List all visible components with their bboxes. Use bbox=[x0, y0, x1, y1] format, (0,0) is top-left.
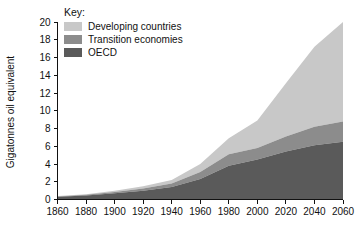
x-tick-label: 1880 bbox=[75, 206, 98, 217]
y-tick-label: 2 bbox=[45, 176, 51, 187]
x-tick-label: 2060 bbox=[332, 206, 355, 217]
legend-swatch-oecd bbox=[64, 48, 82, 57]
x-tick-label: 2000 bbox=[246, 206, 269, 217]
chart-container: 02468101214161820 1860188019001920194019… bbox=[0, 0, 360, 234]
y-axis-title: Gigatonnes oil equivalent bbox=[5, 56, 16, 169]
x-tick-label: 1980 bbox=[218, 206, 241, 217]
y-tick-label: 10 bbox=[39, 105, 51, 116]
x-tick-label: 2020 bbox=[275, 206, 298, 217]
legend-label-transition-economies: Transition economies bbox=[88, 34, 183, 45]
stacked-area-chart: 02468101214161820 1860188019001920194019… bbox=[0, 0, 360, 234]
x-tick-label: 1920 bbox=[132, 206, 155, 217]
x-tick-label: 2040 bbox=[303, 206, 326, 217]
y-tick-label: 0 bbox=[45, 194, 51, 205]
legend-label-oecd: OECD bbox=[88, 47, 117, 58]
y-tick-label: 12 bbox=[39, 88, 51, 99]
legend-label-developing-countries: Developing countries bbox=[88, 21, 181, 32]
y-tick-label: 4 bbox=[45, 159, 51, 170]
y-tick-label: 18 bbox=[39, 34, 51, 45]
x-tick-label: 1960 bbox=[189, 206, 212, 217]
x-tick-label: 1940 bbox=[161, 206, 184, 217]
x-tick-label: 1860 bbox=[46, 206, 69, 217]
legend-swatch-developing-countries bbox=[64, 22, 82, 31]
y-tick-label: 16 bbox=[39, 52, 51, 63]
x-tick-label: 1900 bbox=[103, 206, 126, 217]
legend-title: Key: bbox=[64, 6, 85, 18]
y-tick-label: 14 bbox=[39, 70, 51, 81]
y-tick-label: 6 bbox=[45, 141, 51, 152]
y-tick-label: 8 bbox=[45, 123, 51, 134]
x-axis-tick-labels: 1860188019001920194019601980200020202040… bbox=[46, 206, 354, 217]
legend-swatch-transition-economies bbox=[64, 35, 82, 44]
y-tick-label: 20 bbox=[39, 17, 51, 28]
